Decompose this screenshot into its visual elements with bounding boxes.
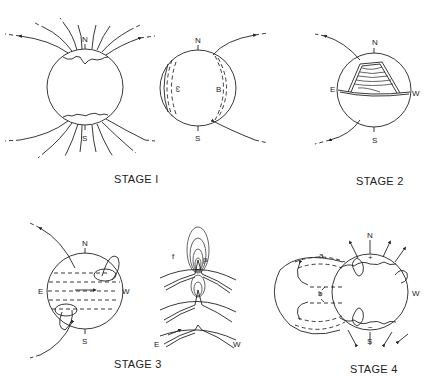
stage1-side-south-label: S	[195, 134, 200, 143]
stage2-east-label: E	[330, 85, 335, 94]
stage3-west-label: W	[122, 287, 130, 296]
stage2-south-label: S	[372, 136, 377, 145]
stage4-north-label: N	[367, 231, 373, 240]
stage1-south-label: S	[82, 134, 87, 143]
solar-cycle-diagram: N S N S ω B STAGE I	[0, 0, 430, 381]
stage1-side-globe: N S ω B	[160, 33, 268, 143]
stage1-side-north-label: N	[195, 36, 201, 45]
stage2-west-label: W	[412, 89, 420, 98]
stage4-minus-label: −	[368, 323, 373, 332]
stage4-west-label: W	[412, 289, 420, 298]
stage3-globe: N S E W	[30, 223, 130, 358]
stage4-south-label: S	[367, 337, 372, 346]
stage4-caption: STAGE 4	[350, 363, 398, 375]
stage3-cross-sections: f p E W	[154, 227, 241, 349]
stage2-caption: STAGE 2	[356, 175, 404, 187]
stage1-b-label: B	[216, 85, 221, 94]
stage4-b-label: b	[318, 289, 323, 298]
stage2-north-label: N	[372, 38, 378, 47]
stage1-omega-label: ω	[174, 86, 183, 92]
stage3-caption: STAGE 3	[114, 358, 162, 370]
stage4-globe: N S W + − a b	[274, 231, 420, 346]
stage3-south-label: S	[82, 337, 87, 346]
stage3-cs-west-label: W	[233, 340, 241, 349]
stage4-a-label: a	[319, 251, 324, 260]
stage4-plus-label: +	[368, 253, 373, 262]
stage3-p-label: p	[203, 255, 208, 264]
stage3-cs-east-label: E	[154, 340, 159, 349]
stage1-north-label: N	[82, 35, 88, 44]
stage3-east-label: E	[38, 287, 43, 296]
stage1-dipole-globe: N S	[5, 18, 155, 158]
stage2-globe: N S E W	[315, 34, 420, 145]
stage3-f-label: f	[172, 252, 175, 261]
stage3-north-label: N	[82, 239, 88, 248]
stage1-caption: STAGE I	[114, 173, 159, 185]
